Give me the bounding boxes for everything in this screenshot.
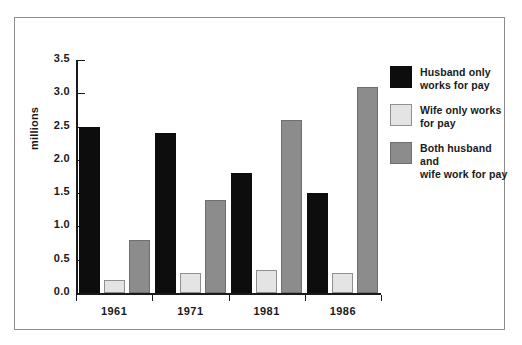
y-tick-mark	[78, 93, 85, 94]
x-tick-mark	[381, 295, 382, 301]
x-tick-mark	[76, 295, 77, 301]
legend-item: Wife only worksfor pay	[390, 104, 510, 130]
legend-label-line: Wife only works	[420, 104, 501, 117]
legend-label: Husband onlyworks for pay	[420, 66, 491, 92]
y-tick-label: 0.0	[54, 285, 70, 297]
legend-swatch	[390, 104, 412, 126]
legend-label: Both husband andwife work for pay	[420, 142, 510, 181]
bar	[129, 240, 150, 293]
bar	[79, 127, 100, 293]
y-tick-label: 3.5	[54, 52, 70, 64]
bar	[205, 200, 226, 293]
y-tick-label: 0.5	[54, 252, 70, 264]
bar	[357, 87, 378, 293]
legend-label-line: Husband only	[420, 66, 491, 79]
y-tick-label: 1.0	[54, 218, 70, 230]
legend-label: Wife only worksfor pay	[420, 104, 501, 130]
x-tick-label: 1986	[303, 305, 383, 317]
legend-item: Both husband andwife work for pay	[390, 142, 510, 181]
y-tick-mark	[78, 293, 85, 294]
bar	[155, 133, 176, 293]
legend-label-line: for pay	[420, 117, 501, 130]
x-tick-mark	[152, 295, 153, 301]
x-tick-label: 1961	[74, 305, 154, 317]
plot-area: 0.00.51.01.52.02.53.03.5 196119711981198…	[76, 60, 381, 293]
chart-legend: Husband onlyworks for payWife only works…	[390, 66, 510, 193]
x-tick-label: 1981	[227, 305, 307, 317]
bar	[104, 280, 125, 293]
legend-item: Husband onlyworks for pay	[390, 66, 510, 92]
y-tick-label: 2.5	[54, 119, 70, 131]
chart-figure: millions 0.00.51.01.52.02.53.03.5 196119…	[0, 0, 522, 345]
x-tick-mark	[305, 295, 306, 301]
y-tick-label: 1.5	[54, 185, 70, 197]
bar	[256, 270, 277, 293]
x-tick-label: 1971	[150, 305, 230, 317]
y-tick-mark	[78, 60, 85, 61]
y-tick-label: 2.0	[54, 152, 70, 164]
y-axis-title: millions	[28, 107, 40, 150]
legend-swatch	[390, 66, 412, 88]
bar	[307, 193, 328, 293]
bar	[231, 173, 252, 293]
legend-swatch	[390, 142, 412, 164]
y-tick-label: 3.0	[54, 85, 70, 97]
legend-label-line: wife work for pay	[420, 168, 510, 181]
bar	[281, 120, 302, 293]
x-tick-mark	[229, 295, 230, 301]
legend-label-line: works for pay	[420, 79, 491, 92]
legend-label-line: Both husband and	[420, 142, 510, 168]
bar	[332, 273, 353, 293]
bar	[180, 273, 201, 293]
